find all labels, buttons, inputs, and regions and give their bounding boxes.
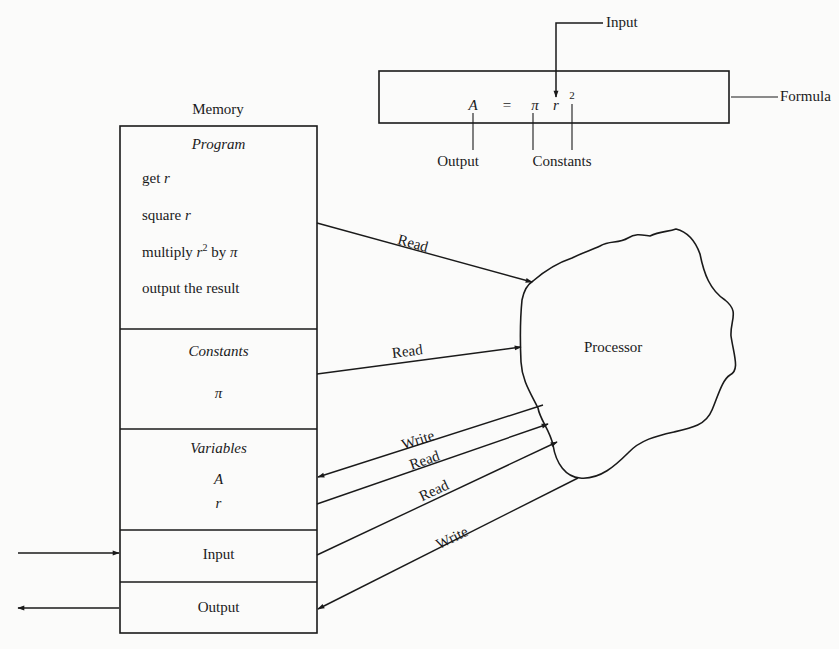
section-title: Variables [120, 440, 317, 457]
formula-equals: = [503, 98, 511, 113]
section-title: Program [120, 136, 317, 153]
formula-label: Formula [780, 89, 831, 104]
memory-title: Memory [192, 102, 244, 117]
program-step: square r [142, 207, 191, 224]
program-step: multiply r2 by π [142, 244, 237, 261]
formula-var: r [553, 98, 559, 113]
section-title: Constants [120, 343, 317, 360]
formula-constants-label: Constants [532, 154, 591, 169]
formula-lhs: A [468, 98, 477, 113]
memory-section-program: Program get r square r multiply r2 by π … [120, 126, 317, 329]
constant-item: π [120, 385, 317, 402]
formula-input-label: Input [606, 15, 638, 30]
memory-section-variables: Variables A r [120, 429, 317, 530]
variable-item: A [120, 471, 317, 488]
processor-label: Processor [584, 340, 642, 355]
variable-item: r [120, 495, 317, 512]
program-step: get r [142, 170, 170, 187]
formula-exponent: 2 [569, 90, 575, 101]
formula-output-label: Output [437, 154, 479, 169]
section-title: Output [120, 599, 317, 616]
program-step: output the result [142, 280, 240, 297]
formula-pi: π [531, 98, 539, 113]
formula-input-arrow [556, 23, 603, 97]
memory-section-input: Input [120, 530, 317, 582]
memory-section-constants: Constants π [120, 329, 317, 429]
section-title: Input [120, 546, 317, 563]
memory-section-output: Output [120, 582, 317, 633]
